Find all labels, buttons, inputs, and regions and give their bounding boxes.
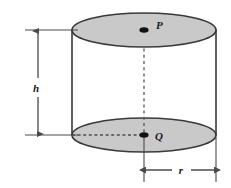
- cylinder-figure: h r P Q: [0, 0, 231, 188]
- height-dimension: h: [25, 30, 78, 135]
- cylinder-diagram-canvas: h r P Q: [0, 0, 231, 188]
- point-p-marker: [139, 27, 148, 33]
- point-q-label: Q: [155, 130, 163, 142]
- point-q-marker: [139, 132, 148, 138]
- height-label: h: [33, 82, 39, 94]
- point-p-label: P: [156, 19, 163, 31]
- radius-label: r: [179, 164, 184, 176]
